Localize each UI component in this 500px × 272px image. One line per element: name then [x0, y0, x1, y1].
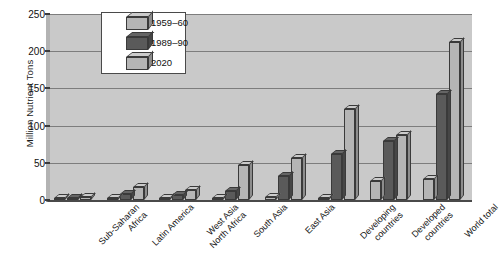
bar — [80, 197, 91, 200]
bar — [265, 197, 276, 200]
legend-entry-2: 2020 — [104, 54, 187, 73]
bar-group — [423, 14, 466, 200]
legend-entry-0: 1959–60 — [104, 14, 187, 33]
legend-swatch-icon-1 — [126, 37, 148, 50]
bar — [318, 198, 329, 200]
y-tick-mark-250 — [45, 13, 50, 15]
bar — [107, 198, 118, 200]
legend: 1959–60 1989–90 2020 — [101, 12, 186, 74]
x-tick-label: Developing countries — [358, 202, 405, 249]
x-tick-label: World total — [463, 202, 500, 240]
y-tick-label-250: 250 — [28, 9, 45, 20]
y-tick-mark-100 — [45, 125, 50, 127]
bar — [159, 198, 170, 200]
y-tick-label-150: 150 — [28, 83, 45, 94]
y-tick-mark-0 — [45, 199, 50, 201]
y-tick-mark-50 — [45, 162, 50, 164]
y-tick-mark-150 — [45, 87, 50, 89]
x-tick-label: Sub-Saharan Africa — [96, 202, 148, 254]
x-tick-label: South Asia — [252, 202, 290, 240]
bar — [383, 141, 394, 200]
bar — [423, 179, 434, 200]
bar — [278, 176, 289, 200]
legend-entry-1: 1989–90 — [104, 34, 187, 53]
y-tick-label-200: 200 — [28, 46, 45, 57]
y-tick-label-100: 100 — [28, 120, 45, 131]
legend-label-0: 1959–60 — [151, 17, 188, 28]
bar — [370, 181, 381, 200]
bar-group — [370, 14, 413, 200]
x-axis-labels: Sub-Saharan AfricaLatin AmericaWest Asia… — [46, 202, 468, 272]
x-tick-label: West Asia North Africa — [200, 202, 248, 250]
legend-swatch-icon-0 — [126, 17, 148, 30]
y-axis-title: Million Nutrient Tons — [24, 19, 35, 189]
bar — [172, 195, 183, 200]
x-tick-label: Developed countries — [410, 202, 455, 247]
bar-group — [318, 14, 361, 200]
bar-group — [54, 14, 97, 200]
legend-label-1: 1989–90 — [151, 37, 188, 48]
legend-swatch-icon-2 — [126, 57, 148, 70]
bar — [54, 198, 65, 200]
x-tick-label: Latin America — [150, 202, 196, 248]
bar — [396, 135, 407, 200]
bar-group — [212, 14, 255, 200]
bar-group — [265, 14, 308, 200]
legend-label-2: 2020 — [151, 57, 172, 68]
y-tick-label-50: 50 — [34, 157, 45, 168]
bar — [212, 198, 223, 200]
x-tick-label: East Asia — [303, 202, 337, 236]
y-tick-mark-200 — [45, 50, 50, 52]
bar — [67, 198, 78, 200]
